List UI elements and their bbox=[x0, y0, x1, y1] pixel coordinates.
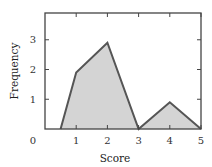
x-tick-label: 1 bbox=[73, 135, 79, 146]
x-tick-label: 3 bbox=[135, 135, 141, 146]
x-tick-label: 4 bbox=[167, 135, 173, 146]
y-tick-label: 2 bbox=[30, 64, 36, 75]
y-tick-label: 1 bbox=[30, 94, 36, 105]
origin-label: 0 bbox=[30, 135, 36, 146]
y-tick-label: 3 bbox=[30, 34, 36, 45]
area-fill bbox=[61, 43, 201, 129]
y-axis-label: Frequency bbox=[8, 43, 20, 100]
x-axis-label: Score bbox=[100, 152, 131, 164]
x-tick-label: 2 bbox=[104, 135, 110, 146]
frequency-area-chart: 123451230 Score Frequency bbox=[0, 0, 212, 167]
area-polygon bbox=[61, 43, 201, 129]
x-tick-label: 5 bbox=[198, 135, 204, 146]
